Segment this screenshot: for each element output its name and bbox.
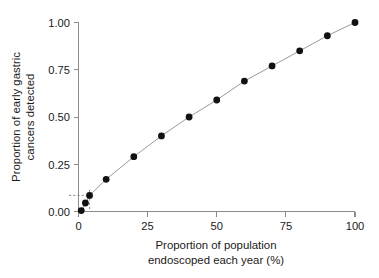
data-point — [158, 133, 165, 140]
data-point — [103, 176, 110, 183]
x-axis-title-line2: endoscoped each year (%) — [148, 254, 284, 266]
x-tick-label-100: 100 — [346, 220, 365, 232]
data-point — [352, 19, 359, 26]
y-tick-label-075: 0.75 — [48, 64, 70, 76]
y-axis-title-line1: Proportion of early gastric — [10, 52, 22, 182]
data-series-line — [81, 23, 355, 211]
data-point — [78, 207, 85, 214]
y-tick-label-025: 0.25 — [48, 159, 70, 171]
data-point — [82, 200, 89, 207]
x-tick-label-25: 25 — [141, 220, 153, 232]
x-tick-label-0: 0 — [75, 220, 81, 232]
data-point — [186, 114, 193, 121]
y-tick-label-050: 0.50 — [48, 111, 70, 123]
data-point — [324, 32, 331, 39]
x-axis-title-line1: Proportion of population — [156, 239, 277, 251]
data-point — [296, 47, 303, 54]
y-axis-title-line2: cancers detected — [24, 74, 36, 161]
y-tick-label-000: 0.00 — [48, 206, 70, 218]
chart-plot-area: 1.00 0.75 0.50 0.25 0.00 0 25 50 75 100 … — [0, 0, 379, 278]
data-point — [130, 153, 137, 160]
chart-figure: 1.00 0.75 0.50 0.25 0.00 0 25 50 75 100 … — [0, 0, 379, 278]
data-point — [213, 97, 220, 104]
data-point — [241, 78, 248, 85]
y-axis-ticks — [74, 23, 79, 212]
x-tick-label-50: 50 — [211, 220, 223, 232]
x-axis-ticks — [79, 212, 356, 217]
data-series-points — [78, 19, 359, 214]
data-point — [86, 192, 93, 199]
x-tick-label-75: 75 — [280, 220, 292, 232]
y-tick-label-1: 1.00 — [48, 17, 70, 29]
data-point — [269, 63, 276, 70]
